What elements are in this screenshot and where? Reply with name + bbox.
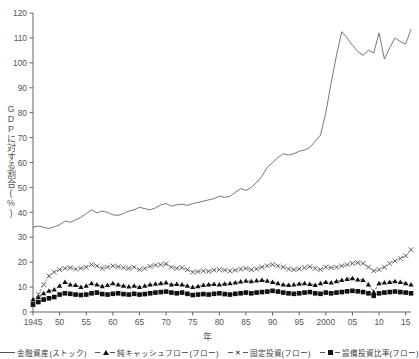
x-tick-label: 65 (135, 317, 145, 327)
y-tick-label: 30 (18, 232, 28, 242)
series-line-0 (33, 29, 411, 228)
legend-item-0[interactable]: 金融資産(ストック) (0, 347, 86, 358)
data-marker (227, 281, 232, 286)
data-marker (78, 284, 83, 289)
data-marker (244, 290, 249, 295)
data-marker (398, 290, 403, 295)
data-marker (382, 280, 387, 285)
data-marker (297, 291, 302, 296)
series-2 (31, 247, 414, 307)
data-marker (249, 291, 254, 296)
data-marker (217, 291, 222, 296)
y-tick-label: 20 (18, 257, 28, 267)
y-tick-label: 50 (18, 183, 28, 193)
data-marker (164, 289, 169, 294)
data-marker (174, 291, 179, 296)
legend-label-1: 純キャッシュフロー(フロー) (117, 347, 218, 358)
data-marker (153, 281, 158, 286)
data-marker (126, 284, 131, 289)
data-marker (377, 291, 382, 296)
data-marker (79, 293, 84, 298)
data-marker (339, 278, 344, 283)
data-marker (211, 281, 216, 286)
x-tick-label: 1945 (24, 317, 43, 327)
data-marker (89, 281, 94, 286)
data-marker (212, 292, 217, 297)
data-marker (366, 291, 371, 296)
data-marker (41, 291, 46, 296)
legend-marker-triangle-icon (102, 349, 109, 356)
data-marker (121, 292, 126, 297)
legend-marker-square-icon (327, 349, 334, 356)
data-marker (308, 290, 313, 295)
x-axis-title: 年 (0, 330, 414, 343)
x-tick-label: 15 (401, 317, 411, 327)
y-tick-label: 70 (18, 133, 28, 143)
data-marker (180, 290, 185, 295)
data-marker (142, 283, 147, 288)
data-marker (57, 283, 62, 288)
legend-item-1[interactable]: 純キャッシュフロー(フロー) (95, 347, 218, 358)
data-marker (387, 290, 392, 295)
data-marker (68, 292, 73, 297)
data-marker (190, 293, 195, 298)
data-marker (292, 292, 297, 297)
data-marker (254, 290, 259, 295)
data-marker (270, 289, 275, 294)
data-marker (201, 282, 206, 287)
data-marker (89, 291, 94, 296)
legend-label-3: 設備投資比率(フロー) (342, 347, 419, 358)
data-marker (371, 289, 376, 294)
data-marker (84, 292, 89, 297)
data-marker (355, 289, 360, 294)
legend-key-none-icon (0, 348, 15, 356)
x-tick-label: 55 (82, 317, 92, 327)
data-marker (291, 282, 296, 287)
data-marker (68, 282, 73, 287)
data-marker (265, 278, 270, 283)
y-tick-label: 40 (18, 208, 28, 218)
data-marker (286, 291, 291, 296)
data-marker (265, 289, 270, 294)
data-marker (105, 282, 110, 287)
data-marker (158, 290, 163, 295)
data-marker (371, 294, 376, 299)
data-marker (361, 290, 366, 295)
data-marker (222, 292, 227, 297)
data-marker (281, 290, 286, 295)
legend-marker-x-icon: ✕ (235, 349, 242, 356)
data-marker (196, 292, 201, 297)
legend-line (0, 352, 15, 353)
data-marker (36, 300, 41, 305)
data-marker (73, 292, 78, 297)
legend-item-2[interactable]: ✕固定投資(フロー) (228, 347, 311, 358)
data-marker (355, 277, 360, 282)
x-tick-label: 70 (161, 317, 171, 327)
legend-item-3[interactable]: 設備投資比率(フロー) (320, 347, 419, 358)
data-marker (238, 279, 243, 284)
y-tick-label: 110 (14, 33, 28, 43)
x-tick-label: 05 (348, 317, 358, 327)
data-marker (110, 281, 115, 286)
data-marker (243, 278, 248, 283)
data-marker (174, 281, 179, 286)
legend-key-x-icon: ✕ (228, 348, 248, 356)
data-marker (403, 290, 408, 295)
x-tick-label: 95 (295, 317, 305, 327)
data-marker (143, 292, 148, 297)
data-marker (392, 279, 397, 284)
y-tick-label: 90 (18, 83, 28, 93)
legend-label-0: 金融資産(ストック) (17, 347, 86, 358)
data-marker (313, 291, 318, 296)
y-tick-label: 0 (22, 307, 27, 317)
data-marker (276, 289, 281, 294)
x-tick-label: 85 (241, 317, 251, 327)
data-marker (116, 291, 121, 296)
data-marker (52, 295, 57, 300)
y-tick-label: 100 (13, 58, 27, 68)
square-icon (328, 350, 333, 355)
data-marker (100, 292, 105, 297)
data-marker (302, 281, 307, 286)
